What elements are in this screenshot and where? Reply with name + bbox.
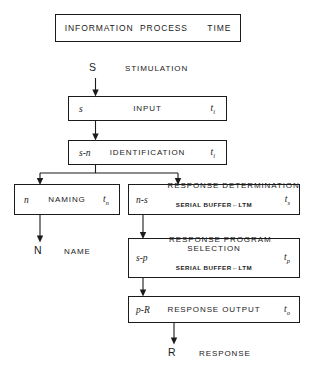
stage-title-response-determination: RESPONSE DETERMINATION — [168, 181, 300, 190]
stage-sublabel-response-determination: SERIAL BUFFER←LTM — [155, 201, 273, 209]
stage-time-response-output: to — [284, 304, 290, 316]
stage-code-naming: n — [24, 195, 29, 205]
stage-label-input: INPUT — [69, 104, 226, 114]
stage-label-response-program-selection: RESPONSE PROGRAMSELECTION SERIAL BUFFER←… — [129, 225, 299, 291]
stage-time-response-program-selection: tp — [284, 252, 290, 264]
stage-label-response-determination: RESPONSE DETERMINATION SERIAL BUFFER←LTM — [129, 171, 299, 227]
stage-box-input[interactable]: s INPUT ti — [68, 96, 227, 121]
stage-box-response-output[interactable]: p-R RESPONSE OUTPUT to — [128, 296, 300, 323]
stage-box-identification[interactable]: s-n IDENTIFICATION ti — [68, 140, 227, 165]
node-name-letter: N — [34, 244, 42, 256]
stage-time-naming: tn — [103, 194, 109, 206]
label-response: RESPONSE — [199, 349, 251, 358]
stage-box-naming[interactable]: n NAMING tn — [14, 184, 120, 215]
stage-time-response-determination: ts — [285, 194, 290, 206]
node-stimulus-letter: S — [89, 61, 96, 73]
stage-time-identification: ti — [211, 147, 215, 159]
diagram-title-box: INFORMATION PROCESS TIME — [55, 14, 241, 42]
stage-code-input: s — [79, 104, 83, 114]
label-stimulation: STIMULATION — [125, 64, 188, 73]
stage-label-response-output: RESPONSE OUTPUT — [129, 305, 299, 315]
stage-time-input: ti — [211, 103, 215, 115]
node-response-letter: R — [168, 346, 176, 358]
stage-code-identification: s-n — [79, 148, 91, 158]
stage-label-identification: IDENTIFICATION — [69, 148, 226, 158]
stage-code-response-output: p-R — [136, 305, 150, 315]
stage-code-response-program-selection: s-p — [136, 253, 148, 263]
diagram-title-text: INFORMATION PROCESS TIME — [65, 23, 231, 33]
stage-title-response-program-selection: RESPONSE PROGRAMSELECTION — [169, 235, 271, 254]
stage-sublabel-response-program-selection: SERIAL BUFFER←LTM — [155, 264, 273, 272]
stage-box-response-program-selection[interactable]: s-p RESPONSE PROGRAMSELECTION SERIAL BUF… — [128, 238, 300, 278]
stage-box-response-determination[interactable]: n-s RESPONSE DETERMINATION SERIAL BUFFER… — [128, 184, 300, 215]
label-name: NAME — [64, 247, 91, 256]
caption-partial — [6, 364, 308, 370]
stage-code-response-determination: n-s — [136, 195, 148, 205]
